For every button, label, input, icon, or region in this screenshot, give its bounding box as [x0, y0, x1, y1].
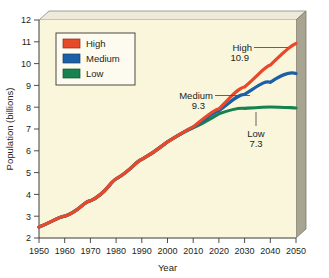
legend-label-medium: Medium [86, 53, 120, 64]
legend-swatch-high [63, 39, 80, 48]
plot-right-slab [296, 11, 306, 238]
x-tick-label: 2000 [157, 246, 177, 256]
y-axis-ticks [34, 20, 39, 238]
y-tick-label: 9 [26, 81, 31, 91]
x-tick-label: 1970 [80, 246, 100, 256]
x-axis-title: Year [158, 262, 177, 273]
annotation-high-value: 10.9 [231, 52, 250, 63]
chart-legend: High Medium Low [56, 33, 135, 85]
x-tick-label: 1980 [106, 246, 126, 256]
x-tick-label: 2030 [235, 246, 255, 256]
x-tick-label: 2050 [286, 246, 306, 256]
x-tick-label: 1950 [29, 246, 49, 256]
y-tick-label: 6 [26, 146, 31, 156]
population-projection-chart: 12 11 10 9 8 7 6 5 4 3 2 1950 1960 1970 … [0, 0, 329, 278]
y-tick-label: 12 [21, 15, 31, 25]
x-tick-label: 2010 [183, 246, 203, 256]
annotation-medium-value: 9.3 [192, 100, 205, 111]
x-tick-label: 2020 [209, 246, 229, 256]
x-tick-label: 2040 [260, 246, 280, 256]
plot-top-slab [39, 11, 306, 20]
y-axis-title: Population (billions) [4, 88, 15, 171]
annotation-low-value: 7.3 [249, 138, 262, 149]
y-tick-label: 7 [26, 124, 31, 134]
y-tick-label: 3 [26, 212, 31, 222]
y-tick-label: 2 [26, 233, 31, 243]
chart-figure: 12 11 10 9 8 7 6 5 4 3 2 1950 1960 1970 … [0, 0, 329, 278]
x-tick-label: 1960 [55, 246, 75, 256]
legend-swatch-medium [63, 54, 80, 63]
y-tick-label: 11 [22, 37, 31, 47]
x-axis-tick-labels: 1950 1960 1970 1980 1990 2000 2010 2020 … [29, 246, 306, 256]
y-tick-label: 4 [26, 190, 31, 200]
y-tick-label: 10 [21, 59, 31, 69]
x-tick-label: 1990 [132, 246, 152, 256]
y-axis-tick-labels: 12 11 10 9 8 7 6 5 4 3 2 [21, 15, 31, 243]
legend-swatch-low [63, 69, 80, 78]
x-axis-ticks [39, 238, 296, 243]
legend-label-high: High [86, 38, 106, 49]
legend-label-low: Low [86, 68, 104, 79]
y-tick-label: 5 [26, 168, 31, 178]
y-tick-label: 8 [26, 103, 31, 113]
